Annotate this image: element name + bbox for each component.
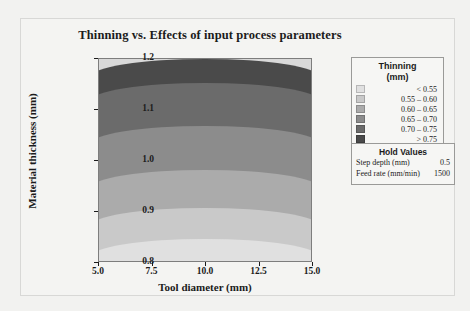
hold-value-number: 0.5 [435, 158, 450, 169]
hold-value-label: Step depth (mm) [356, 158, 410, 169]
legend-label: 0.60 – 0.65 [365, 105, 439, 114]
chart-title: Thinning vs. Effects of input process pa… [60, 28, 360, 43]
y-tick-label: 1.2 [94, 52, 154, 62]
y-tick-label: 0.9 [94, 205, 154, 215]
x-tick-label: 10.0 [183, 266, 227, 276]
x-tick-label: 15.0 [290, 266, 334, 276]
legend-swatch [356, 95, 365, 103]
hold-values-box: Hold Values Step depth (mm)0.5Feed rate … [351, 143, 455, 185]
y-tick-mark [94, 211, 98, 212]
y-tick-label: 1.1 [94, 103, 154, 113]
hold-values-rows: Step depth (mm)0.5Feed rate (mm/min)1500 [356, 158, 450, 180]
legend-entry: 0.65 – 0.70 [356, 115, 439, 124]
legend-entries: < 0.550.55 – 0.600.60 – 0.650.65 – 0.700… [356, 85, 439, 144]
y-tick-mark [94, 160, 98, 161]
legend-label: < 0.55 [365, 85, 439, 94]
legend-label: 0.55 – 0.60 [365, 95, 439, 104]
legend-entry: 0.60 – 0.65 [356, 105, 439, 114]
y-tick-mark [94, 109, 98, 110]
chart-page: Thinning vs. Effects of input process pa… [0, 0, 470, 311]
legend-label: 0.65 – 0.70 [365, 115, 439, 124]
legend-swatch [356, 125, 365, 133]
legend-title: Thinning [356, 61, 439, 72]
legend-swatch [356, 115, 365, 123]
y-axis-title: Material thickness (mm) [26, 61, 38, 241]
y-tick-label: 1.0 [94, 154, 154, 164]
x-tick-mark [259, 262, 260, 266]
x-tick-mark [205, 262, 206, 266]
legend-entry: 0.70 – 0.75 [356, 125, 439, 134]
x-tick-mark [98, 262, 99, 266]
x-tick-mark [312, 262, 313, 266]
x-tick-label: 7.5 [130, 266, 174, 276]
legend-entry: 0.55 – 0.60 [356, 95, 439, 104]
y-tick-mark [94, 58, 98, 59]
legend: Thinning (mm) < 0.550.55 – 0.600.60 – 0.… [351, 57, 444, 149]
legend-entry: < 0.55 [356, 85, 439, 94]
x-tick-label: 12.5 [237, 266, 281, 276]
legend-units: (mm) [356, 72, 439, 83]
x-axis-title: Tool diameter (mm) [98, 281, 312, 293]
hold-values-title: Hold Values [356, 147, 450, 157]
hold-value-row: Step depth (mm)0.5 [356, 158, 450, 169]
hold-value-number: 1500 [429, 169, 450, 180]
hold-value-label: Feed rate (mm/min) [356, 169, 420, 180]
legend-swatch [356, 135, 365, 143]
legend-swatch [356, 105, 365, 113]
legend-label: 0.70 – 0.75 [365, 125, 439, 134]
x-tick-label: 5.0 [76, 266, 120, 276]
hold-value-row: Feed rate (mm/min)1500 [356, 169, 450, 180]
legend-swatch [356, 85, 365, 93]
x-tick-mark [152, 262, 153, 266]
y-tick-label: 0.8 [94, 256, 154, 266]
